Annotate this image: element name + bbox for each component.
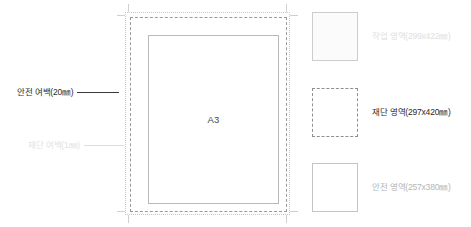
callout-trim-margin: 재단 여백(1㎜) xyxy=(28,141,124,150)
legend-item-safety-area: 안전 영역(257x380㎜) xyxy=(312,163,451,212)
leader-line-trim xyxy=(84,145,124,146)
leader-line-safety xyxy=(77,92,119,93)
callout-safety-margin-label: 안전 여백(20㎜) xyxy=(17,88,73,97)
legend-swatch-safety-area xyxy=(312,163,358,212)
legend-item-work-area: 작업 영역(299x422㎜) xyxy=(312,12,451,61)
legend-label-safety-area: 안전 영역(257x380㎜) xyxy=(372,183,451,192)
legend-item-trim-area: 재단 영역(297x420㎜) xyxy=(312,88,451,137)
paper-size-label: A3 xyxy=(207,114,219,125)
legend-label-work-area: 작업 영역(299x422㎜) xyxy=(372,32,451,41)
callout-safety-margin: 안전 여백(20㎜) xyxy=(17,88,119,97)
legend-swatch-trim-area xyxy=(312,88,358,137)
legend-label-trim-area: 재단 영역(297x420㎜) xyxy=(372,108,451,117)
trim-area-boundary: A3 xyxy=(130,17,287,212)
safety-area-boundary: A3 xyxy=(148,35,279,204)
work-area-boundary: A3 xyxy=(125,12,290,215)
a3-page-diagram: A3 xyxy=(125,12,290,215)
print-layout-diagram: 안전 여백(20㎜) 재단 여백(1㎜) A3 작업 영 xyxy=(0,0,471,227)
legend-swatch-work-area xyxy=(312,12,358,61)
callout-trim-margin-label: 재단 여백(1㎜) xyxy=(28,141,80,150)
